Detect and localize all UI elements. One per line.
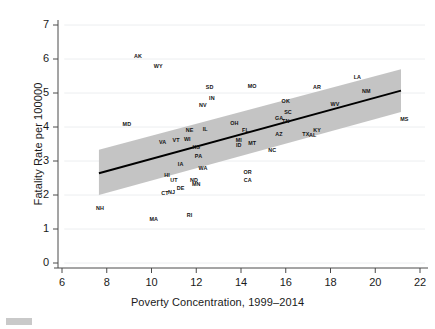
- data-point-label-ca: CA: [244, 177, 252, 183]
- x-tick-label: 22: [405, 276, 435, 288]
- data-point-label-nc: NC: [268, 147, 276, 153]
- data-point-label-sc: SC: [284, 109, 292, 115]
- data-point-label-la: LA: [354, 74, 361, 80]
- x-axis-title: Poverty Concentration, 1999–2014: [0, 296, 435, 308]
- data-point-label-ne: NE: [186, 127, 194, 133]
- data-point-label-va: VA: [159, 139, 166, 145]
- data-point-label-tn: TN: [282, 118, 289, 124]
- x-tick-label: 12: [181, 276, 211, 288]
- data-point-label-ks: KS: [192, 144, 200, 150]
- x-tick-label: 20: [360, 276, 390, 288]
- data-point-label-nv: NV: [199, 102, 207, 108]
- data-point-label-de: DE: [177, 185, 185, 191]
- data-point-label-wi: WI: [184, 136, 191, 142]
- data-point-label-nm: NM: [362, 88, 371, 94]
- data-point-label-fl: FL: [242, 127, 249, 133]
- x-tick-label: 10: [137, 276, 167, 288]
- data-point-label-md: MD: [123, 121, 132, 127]
- data-point-label-ak: AK: [134, 53, 142, 59]
- data-point-label-id: ID: [236, 142, 242, 148]
- x-tick-label: 18: [316, 276, 346, 288]
- data-point-label-nh: NH: [96, 205, 104, 211]
- page-artifact-mark: [6, 318, 32, 325]
- data-point-label-in: IN: [209, 95, 215, 101]
- data-point-label-ok: OK: [282, 98, 290, 104]
- data-point-label-ri: RI: [187, 212, 193, 218]
- data-point-label-nj: NJ: [168, 189, 175, 195]
- scatter-plot-figure: AKWYMDSDINNVMONEVAVTWIILOHFLKSMIIDPAMTIA…: [0, 0, 435, 329]
- data-point-label-il: IL: [203, 126, 208, 132]
- data-point-label-sd: SD: [206, 84, 214, 90]
- x-tick-label: 16: [271, 276, 301, 288]
- data-point-label-az: AZ: [275, 131, 282, 137]
- y-axis-title: Fatality Rate per 100000: [32, 19, 44, 269]
- data-point-label-ut: UT: [170, 177, 177, 183]
- data-point-label-al: AL: [309, 132, 316, 138]
- data-point-label-mn: MN: [192, 181, 201, 187]
- data-point-label-hi: HI: [164, 172, 170, 178]
- x-tick-label: 14: [226, 276, 256, 288]
- data-point-label-wv: WV: [331, 101, 340, 107]
- data-point-label-ia: IA: [178, 161, 184, 167]
- data-point-label-ms: MS: [400, 116, 408, 122]
- x-tick-label: 8: [92, 276, 122, 288]
- data-point-label-mt: MT: [248, 140, 256, 146]
- data-point-label-wa: WA: [199, 165, 208, 171]
- data-point-label-ma: MA: [149, 216, 158, 222]
- data-point-label-oh: OH: [230, 120, 238, 126]
- data-point-label-vt: VT: [173, 137, 180, 143]
- data-point-label-mo: MO: [248, 83, 257, 89]
- data-point-label-pa: PA: [195, 153, 202, 159]
- x-tick-label: 6: [47, 276, 77, 288]
- data-point-label-wy: WY: [154, 63, 163, 69]
- data-point-label-ar: AR: [313, 84, 321, 90]
- data-point-label-or: OR: [244, 169, 252, 175]
